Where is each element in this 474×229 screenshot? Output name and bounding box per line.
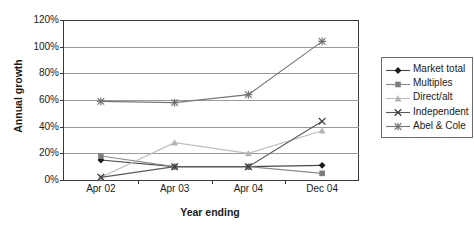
legend-marker-triangle-icon (385, 91, 411, 104)
y-tick-label: 80% (7, 68, 59, 78)
data-point-asterisk (318, 38, 326, 46)
y-tick-label: 120% (7, 15, 59, 25)
x-tick-label: Apr 03 (140, 184, 210, 194)
series-line (101, 156, 322, 173)
data-point-diamond (319, 162, 326, 169)
legend-marker-square-icon (385, 77, 411, 90)
data-point-asterisk (97, 98, 105, 106)
legend-item: Market total (385, 62, 468, 76)
legend-item: Abel & Cole (385, 119, 468, 133)
legend-label: Multiples (411, 78, 452, 88)
x-tick-label: Apr 04 (213, 184, 283, 194)
line-chart: Annual growth 0%20%40%60%80%100%120% Apr… (0, 0, 474, 229)
y-tick-label: 0% (7, 175, 59, 185)
data-point-triangle (171, 139, 178, 145)
data-point-asterisk (394, 123, 402, 131)
y-tick-mark (60, 180, 64, 181)
legend-item: Multiples (385, 76, 468, 90)
series-direct-alt (97, 127, 325, 180)
data-point-triangle (319, 127, 326, 133)
legend-label: Direct/alt (411, 92, 452, 102)
legend-marker-x-icon (385, 105, 411, 118)
y-tick-label: 60% (7, 95, 59, 105)
x-tick-mark (212, 180, 213, 184)
data-point-square (319, 171, 325, 177)
series-line (101, 121, 322, 177)
legend-label: Abel & Cole (411, 121, 466, 131)
x-tick-mark (138, 180, 139, 184)
y-tick-label: 40% (7, 122, 59, 132)
data-point-square (98, 153, 104, 159)
data-point-square (395, 81, 401, 87)
chart-legend: Market totalMultiplesDirect/altIndepende… (381, 57, 473, 138)
data-point-diamond (395, 67, 402, 74)
legend-label: Market total (411, 64, 465, 74)
x-axis-title: Year ending (60, 206, 360, 218)
legend-label: Independent (411, 107, 469, 117)
series-line (101, 41, 322, 102)
data-point-asterisk (171, 99, 179, 107)
y-tick-label: 100% (7, 42, 59, 52)
series-abel-cole (97, 38, 326, 107)
legend-item: Independent (385, 105, 468, 119)
legend-item: Direct/alt (385, 90, 468, 104)
series-layer (64, 20, 359, 180)
legend-marker-diamond-icon (385, 63, 411, 76)
y-tick-label: 20% (7, 148, 59, 158)
legend-marker-asterisk-icon (385, 119, 411, 132)
x-tick-label: Apr 02 (66, 184, 136, 194)
plot-area: 0%20%40%60%80%100%120% Apr 02Apr 03Apr 0… (63, 20, 359, 181)
data-point-asterisk (244, 91, 252, 99)
data-point-x (319, 118, 326, 125)
x-tick-mark (285, 180, 286, 184)
series-independent (98, 118, 326, 181)
x-tick-label: Dec 04 (287, 184, 357, 194)
